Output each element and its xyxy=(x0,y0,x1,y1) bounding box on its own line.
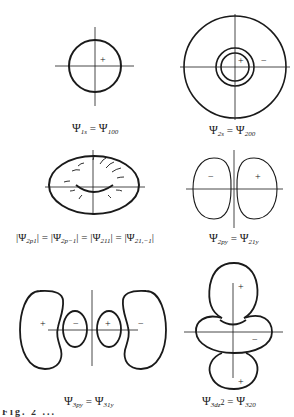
caption-2s: Ψ2s = Ψ200 xyxy=(209,123,255,138)
caption-3py: Ψ3py = Ψ31y xyxy=(64,394,114,409)
sign-2py-minus: − xyxy=(208,171,214,182)
sign-3dz2-minus: − xyxy=(252,334,258,345)
sign-3py-minus-inner: − xyxy=(73,318,79,329)
sign-3py-plus-inner: + xyxy=(105,318,111,329)
orbital-figure: + + − − + + − + − + − + xyxy=(0,0,294,417)
clipped-figure-caption: Fig. 2 ... xyxy=(0,410,294,417)
sign-1s-plus: + xyxy=(100,54,106,65)
orbital-3dz2-diagram xyxy=(184,263,283,389)
caption-1s: Ψ1s = Ψ100 xyxy=(72,121,118,136)
caption-2py: Ψ2py = Ψ21y xyxy=(209,231,259,246)
orbital-3py-diagram xyxy=(20,290,166,369)
sign-3dz2-plus-top: + xyxy=(238,281,244,292)
caption-3dz2: Ψ3dz2 = Ψ320 xyxy=(202,394,256,409)
sign-2py-plus: + xyxy=(255,171,261,182)
caption-2p1: |Ψ2p1| = |Ψ2p−1| = |Ψ211| = |Ψ21,−1| xyxy=(16,231,154,245)
sign-3dz2-plus-bottom: + xyxy=(238,376,244,387)
sign-3py-minus-outer: − xyxy=(138,318,144,329)
orbital-2p1-diagram xyxy=(45,150,145,215)
orbital-2py-diagram xyxy=(186,150,283,228)
sign-2s-plus: + xyxy=(238,55,244,66)
sign-3py-plus-outer: + xyxy=(40,318,46,329)
orbital-2s-diagram xyxy=(180,14,290,120)
sign-2s-minus: − xyxy=(261,55,267,66)
orbital-1s-diagram xyxy=(55,27,134,106)
